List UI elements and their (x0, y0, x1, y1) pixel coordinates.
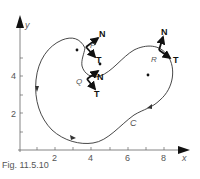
x-tick-2: 2 (52, 153, 57, 163)
q-normal-label: N (97, 72, 104, 82)
r-normal-label: N (161, 27, 168, 37)
y-tick-2: 2 (11, 109, 16, 119)
point-r-label: R (151, 55, 157, 64)
center-dot (76, 49, 79, 52)
curve-c-label: C (130, 118, 137, 128)
p-normal-label: N (99, 29, 106, 39)
curve-direction-arrow-icon (70, 135, 76, 140)
point-r-vectors (159, 37, 170, 58)
y-tick-4: 4 (11, 71, 16, 81)
x-axis-label: x (181, 153, 187, 163)
x-tick-6: 6 (125, 153, 130, 163)
y-axis-label: y (24, 20, 30, 30)
q-tangent-label: T (94, 89, 100, 99)
figure-canvas: y x 4 2 2 4 6 8 P N T Q N T R N T C (0, 0, 200, 179)
r-tangent-label: T (173, 55, 179, 65)
point-p-label: P (90, 41, 96, 50)
y-axis-arrow-icon (16, 15, 24, 28)
x-tick-8: 8 (161, 153, 166, 163)
point-q-label: Q (76, 77, 82, 86)
p-tangent-label: T (96, 55, 102, 65)
curve-c (36, 38, 173, 143)
figure-caption: Fig. 11.5.10 (2, 160, 49, 170)
center-dot (147, 74, 150, 77)
y-axis (16, 15, 24, 152)
x-tick-4: 4 (88, 153, 93, 163)
